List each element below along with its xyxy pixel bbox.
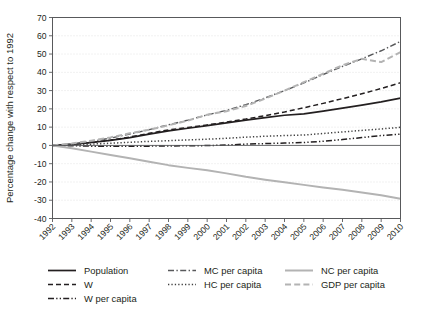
y-tick-label: 40	[37, 67, 47, 77]
legend-label: Population	[84, 265, 128, 276]
legend-label: W	[84, 279, 93, 290]
legend-label: NC per capita	[321, 265, 379, 276]
legend-label: HC per capita	[204, 279, 262, 290]
legend-label: GDP per capita	[321, 279, 386, 290]
percentage-change-line-chart: 706050403020100-10-20-30-40 199219931994…	[0, 0, 421, 313]
y-axis-label: Percentage change with respect to 1992	[4, 33, 15, 203]
chart-figure: 706050403020100-10-20-30-40 199219931994…	[0, 0, 421, 313]
y-tick-label: 10	[37, 122, 47, 132]
y-tick-label: 0	[42, 141, 47, 151]
y-tick-label: -30	[34, 195, 47, 205]
y-tick-label: -20	[34, 177, 47, 187]
y-tick-label: 70	[37, 13, 47, 23]
y-tick-label: 30	[37, 86, 47, 96]
y-tick-label: 60	[37, 31, 47, 41]
legend-label: W per capita	[84, 293, 137, 304]
y-tick-label: -40	[34, 214, 47, 224]
y-tick-label: 20	[37, 104, 47, 114]
legend-label: MC per capita	[204, 265, 263, 276]
y-tick-label: 50	[37, 49, 47, 59]
y-tick-label: -10	[34, 159, 47, 169]
